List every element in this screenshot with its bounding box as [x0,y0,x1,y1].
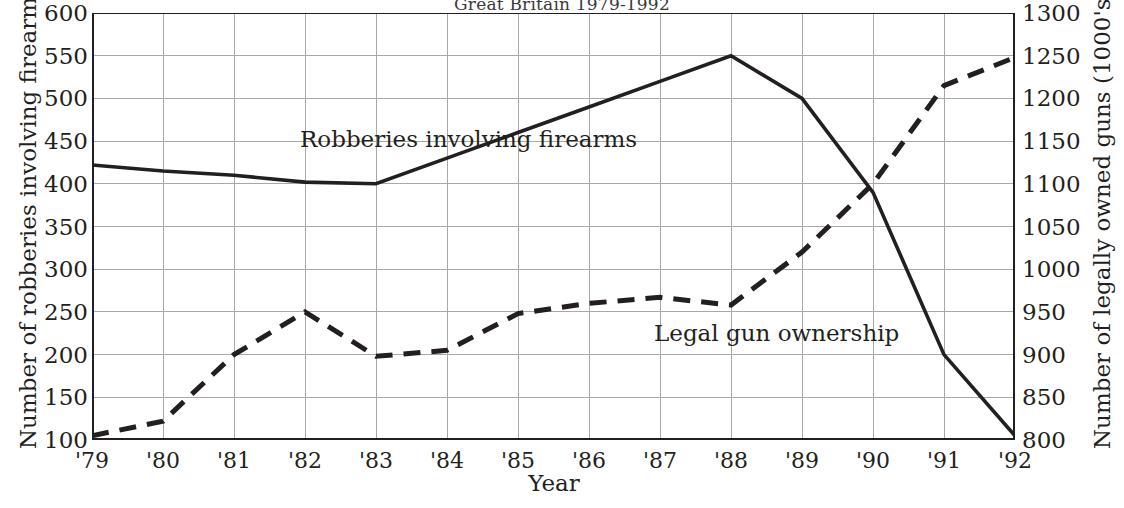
x-tick: '86 [572,448,606,473]
x-tick: '89 [785,448,819,473]
x-tick: '83 [359,448,393,473]
x-tick: '88 [714,448,748,473]
chart-figure: Great Britain 1979-1992 Number of robber… [0,0,1124,508]
x-tick: '92 [998,448,1032,473]
x-tick: '91 [927,448,961,473]
series-label-robberies: Robberies involving firearms [300,126,637,152]
series-line-guns [92,57,1015,435]
x-tick: '84 [430,448,464,473]
x-tick: '87 [643,448,677,473]
x-tick: '90 [856,448,890,473]
plot-area: Robberies involving firearms Legal gun o… [92,13,1015,440]
plot-canvas [92,13,1015,440]
series-line-robberies [92,56,1015,436]
x-tick: '82 [288,448,322,473]
x-tick: '81 [217,448,251,473]
series-label-guns: Legal gun ownership [654,320,899,346]
x-tick: '80 [146,448,180,473]
data-series [92,56,1015,436]
x-tick: '79 [75,448,109,473]
x-tick: '85 [501,448,535,473]
grid-lines [92,13,1015,440]
